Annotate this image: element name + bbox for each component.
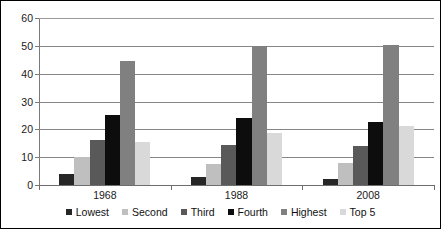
plot-area: 0102030405060: [39, 18, 434, 185]
legend-item-label: Second: [132, 207, 168, 218]
bar: [120, 61, 135, 185]
legend-item-label: Highest: [291, 207, 327, 218]
y-axis-tick-label: 50: [21, 41, 33, 52]
bar: [74, 157, 89, 185]
bar: [323, 179, 338, 185]
y-axis-tick-label: 60: [21, 13, 33, 24]
bar-group: [39, 18, 171, 185]
legend-item[interactable]: Top 5: [340, 207, 376, 218]
legend-item[interactable]: Lowest: [66, 207, 109, 218]
bar-group: [171, 18, 303, 185]
bar: [105, 115, 120, 185]
y-axis-tick-label: 40: [21, 68, 33, 79]
bar: [191, 177, 206, 185]
y-axis-tick-label: 20: [21, 124, 33, 135]
bar: [135, 142, 150, 185]
x-axis-tick-mark: [434, 185, 435, 190]
x-axis-tick-label: 2008: [302, 190, 434, 201]
legend-swatch-icon: [340, 209, 346, 215]
x-axis-tick-mark: [302, 185, 303, 190]
legend-item[interactable]: Second: [122, 207, 168, 218]
legend-swatch-icon: [228, 209, 234, 215]
bar-group: [302, 18, 434, 185]
y-axis-tick-label: 0: [27, 180, 33, 191]
x-axis-tick-label: 1988: [171, 190, 303, 201]
legend-swatch-icon: [281, 209, 287, 215]
bar: [206, 164, 221, 185]
x-axis-tick-mark: [39, 185, 40, 190]
bar: [267, 133, 282, 185]
bar: [252, 46, 267, 185]
legend-item[interactable]: Fourth: [228, 207, 268, 218]
legend-item-label: Fourth: [238, 207, 268, 218]
legend-swatch-icon: [181, 209, 187, 215]
bar-chart-figure: 0102030405060 196819882008 LowestSecondT…: [0, 0, 441, 229]
bar-groups: [39, 18, 434, 185]
x-axis-tick-mark: [171, 185, 172, 190]
bar: [399, 126, 414, 185]
bar: [338, 163, 353, 185]
y-axis-tick-label: 10: [21, 152, 33, 163]
legend-item-label: Top 5: [350, 207, 376, 218]
legend-item-label: Lowest: [76, 207, 109, 218]
bar: [59, 174, 74, 185]
legend-item[interactable]: Highest: [281, 207, 327, 218]
x-axis-tick-label: 1968: [39, 190, 171, 201]
legend-swatch-icon: [66, 209, 72, 215]
legend-swatch-icon: [122, 209, 128, 215]
legend-item-label: Third: [191, 207, 215, 218]
legend-item[interactable]: Third: [181, 207, 215, 218]
chart-legend: LowestSecondThirdFourthHighestTop 5: [1, 207, 440, 218]
y-axis-tick-label: 30: [21, 96, 33, 107]
gridline: [39, 185, 434, 186]
bar: [353, 146, 368, 185]
bar: [383, 45, 398, 185]
bar: [236, 118, 251, 185]
bar: [90, 140, 105, 185]
bar: [368, 122, 383, 185]
bar: [221, 145, 236, 185]
